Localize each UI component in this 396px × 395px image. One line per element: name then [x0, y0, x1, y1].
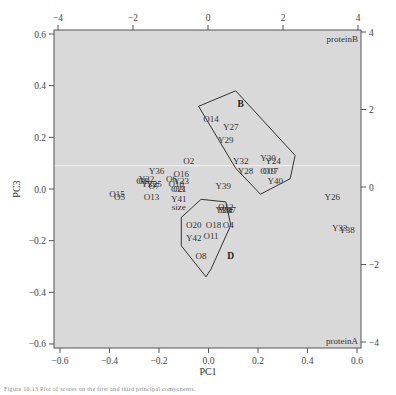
- right-tick-label: 4: [369, 28, 374, 38]
- x-tick-label: −0.4: [101, 356, 118, 366]
- x-tick-label: 0.2: [252, 356, 264, 366]
- x-tick-label: −0.2: [150, 356, 167, 366]
- point-label: O7: [149, 181, 160, 191]
- x-tick-label: 0.6: [351, 356, 363, 366]
- point-label: Y27: [223, 122, 239, 132]
- x-tick-label: −0.6: [51, 356, 68, 366]
- right-tick-label: −4: [369, 338, 379, 348]
- point-label: Y37: [221, 205, 237, 215]
- point-label: Y29: [218, 135, 234, 145]
- y-axis-title: PC3: [11, 180, 22, 197]
- point-label: O20: [186, 220, 202, 230]
- y-tick-label: −0.6: [29, 339, 46, 349]
- top-tick-label: 4: [356, 13, 361, 23]
- x-tick-label: 0.0: [203, 356, 215, 366]
- point-label: size: [172, 202, 186, 212]
- corner-label-proteinB: proteinB: [327, 34, 359, 44]
- point-label: O18: [206, 220, 222, 230]
- x-tick-label: 0.4: [302, 356, 314, 366]
- group-label-D: D: [227, 251, 234, 261]
- point-label: Y38: [339, 225, 355, 235]
- top-tick-label: −4: [53, 13, 63, 23]
- point-label: Y24: [265, 156, 281, 166]
- point-label: Y42: [186, 233, 202, 243]
- point-label: O21: [171, 184, 187, 194]
- y-axis-right: −4−2024: [361, 28, 379, 348]
- point-label: O4: [223, 220, 234, 230]
- biplot-chart: O14Y27Y29O2Y32Y30Y24Y28O19O17Y40Y36O16O6…: [0, 0, 396, 395]
- top-tick-label: 0: [206, 13, 211, 23]
- y-tick-label: 0.0: [34, 185, 46, 195]
- point-label: O17: [263, 166, 279, 176]
- corner-label-proteinA: proteinA: [326, 336, 358, 346]
- point-label: O13: [144, 192, 160, 202]
- right-tick-label: 0: [369, 183, 374, 193]
- top-tick-label: 2: [281, 13, 286, 23]
- x-axis-top: −4−2024: [53, 13, 361, 30]
- point-label: O5: [114, 192, 125, 202]
- point-label: Y40: [268, 176, 284, 186]
- point-label: O14: [203, 114, 219, 124]
- plot-background: [54, 30, 361, 348]
- top-tick-label: −2: [128, 13, 138, 23]
- figure-caption: Figure 10.13 Plot of scores on the first…: [4, 386, 196, 392]
- point-label: Y26: [325, 192, 341, 202]
- point-label: O8: [196, 251, 207, 261]
- y-tick-label: −0.2: [29, 236, 46, 246]
- point-label: Y39: [216, 181, 232, 191]
- point-label: O11: [203, 231, 218, 241]
- right-tick-label: −2: [369, 260, 379, 270]
- x-axis-bottom: −0.6−0.4−0.20.00.20.40.6: [51, 348, 363, 366]
- y-axis-left: −0.6−0.4−0.20.00.20.40.6: [29, 30, 54, 350]
- point-label: Y32: [233, 156, 249, 166]
- group-label-B: B: [238, 99, 245, 109]
- x-axis-title: PC1: [199, 366, 216, 377]
- y-tick-label: 0.6: [34, 30, 46, 40]
- right-tick-label: 2: [369, 105, 374, 115]
- y-tick-label: 0.2: [34, 133, 46, 143]
- y-tick-label: −0.4: [29, 288, 46, 298]
- y-tick-label: 0.4: [34, 81, 46, 91]
- point-label: O2: [183, 156, 194, 166]
- point-label: Y28: [238, 166, 254, 176]
